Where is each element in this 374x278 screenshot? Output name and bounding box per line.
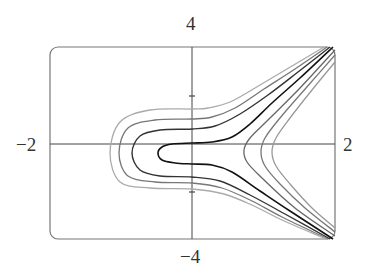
- y-max-label: 4: [186, 14, 196, 33]
- level-curves: [110, 47, 335, 239]
- x-min-label: −2: [16, 135, 36, 154]
- x-max-label: 2: [343, 135, 353, 154]
- y-min-label: −4: [180, 247, 200, 266]
- contour-level-2: [132, 47, 330, 239]
- contour-level-3: [119, 47, 328, 239]
- contour-plot: [0, 0, 374, 278]
- contour-level-r3: [272, 62, 335, 228]
